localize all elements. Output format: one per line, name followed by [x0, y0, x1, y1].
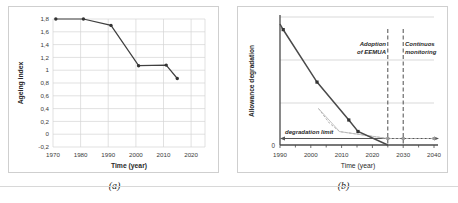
chart-a-plot: 1,8 1,6 1,4 1,2 1 0,8 0,6 0,4 0,2 0 -0,2…: [9, 7, 218, 172]
chart-a-xtick: 1980: [74, 151, 88, 158]
figure-panel-a: 1,8 1,6 1,4 1,2 1 0,8 0,6 0,4 0,2 0 -0,2…: [0, 0, 229, 203]
chart-a-xtick: 2000: [129, 151, 143, 158]
chart-a-ytick: -0,2: [38, 143, 49, 150]
chart-a-ytick: 0,6: [40, 92, 49, 99]
chart-b-xaxis-title: Time (year): [341, 162, 376, 170]
chart-a-yaxis-title: Ageing index: [17, 61, 25, 104]
chart-a-xtick: 2020: [184, 151, 198, 158]
chart-b-box: degradation limit Adoption of EEMUA Cont…: [237, 6, 448, 173]
chart-a-box: 1,8 1,6 1,4 1,2 1 0,8 0,6 0,4 0,2 0 -0,2…: [8, 6, 219, 173]
chart-b-series-mitigated: [319, 109, 436, 141]
chart-a-series-ageing-index: [54, 17, 179, 80]
annotation-adoption-line1: Adoption: [359, 41, 387, 47]
chart-a-gridlines: [53, 19, 205, 147]
chart-a-xtick: 2010: [157, 151, 171, 158]
annotation-adoption-line2: of EEMUA: [357, 49, 386, 55]
chart-b-plot: degradation limit Adoption of EEMUA Cont…: [238, 7, 447, 172]
figure-panel-b: degradation limit Adoption of EEMUA Cont…: [229, 0, 458, 203]
annotation-degradation-limit: degradation limit: [285, 129, 334, 135]
chart-a-ytick: 1,4: [40, 41, 49, 48]
chart-a-ytick: 0,8: [40, 79, 49, 86]
chart-a-ytick: 1,6: [40, 28, 49, 35]
chart-a-xaxis-title: Time (year): [111, 162, 147, 170]
chart-b-xtick: 2040: [427, 151, 441, 158]
chart-a-ytick: 1: [46, 66, 50, 73]
chart-b-event-vlines: [388, 29, 403, 145]
chart-a-ytick-labels: 1,8 1,6 1,4 1,2 1 0,8 0,6 0,4 0,2 0 -0,2: [38, 15, 49, 150]
chart-a-ytick: 1,2: [40, 54, 49, 61]
chart-a-ytick: 0,4: [40, 105, 49, 112]
chart-b-xtick: 2010: [335, 151, 349, 158]
annotation-continuos-line1: Continuos: [405, 41, 435, 47]
chart-a-ytick: 0: [46, 130, 50, 137]
chart-b-xtick: 2000: [304, 151, 318, 158]
chart-b-annotations: degradation limit Adoption of EEMUA Cont…: [285, 41, 437, 135]
chart-b-yaxis-title: Allowance degradation: [248, 45, 256, 117]
chart-a-xtick: 1970: [46, 151, 60, 158]
figure-divider: [0, 186, 458, 187]
annotation-continuos-line2: monitoring: [405, 49, 437, 55]
chart-b-ytick: 0: [271, 142, 275, 149]
chart-b-xtick: 1990: [273, 151, 287, 158]
chart-a-xtick-labels: 1970 1980 1990 2000 2010 2020: [46, 151, 198, 158]
chart-a-ytick: 0,2: [40, 118, 49, 125]
chart-b-xtick: 2020: [366, 151, 380, 158]
chart-b-xtick-labels: 1990 2000 2010 2020 2030 2040: [273, 151, 441, 158]
chart-a-xtick: 1990: [101, 151, 115, 158]
chart-b-xtick: 2030: [396, 151, 410, 158]
chart-a-ytick: 1,8: [40, 15, 49, 22]
figure-row: 1,8 1,6 1,4 1,2 1 0,8 0,6 0,4 0,2 0 -0,2…: [0, 0, 458, 203]
